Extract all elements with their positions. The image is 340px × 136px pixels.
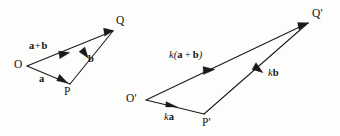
point-label-P-prime: P' xyxy=(202,117,211,129)
vector-diagram-figure: O P Q a b a+b O' P' Q' ka kb k(a+b) xyxy=(0,0,340,136)
point-label-Q: Q xyxy=(116,15,124,27)
vector-a-in-ka: a xyxy=(169,111,174,122)
right-triangle-group xyxy=(146,23,309,115)
vector-k-a-plus-b-arrow xyxy=(146,23,309,101)
vector-label-b: b xyxy=(88,54,94,65)
vector-kb-arrow xyxy=(204,23,308,114)
point-label-O: O xyxy=(14,59,22,71)
vector-ka-arrow xyxy=(146,100,204,114)
vector-label-kb: kb xyxy=(268,68,279,79)
vector-label-b-part: b xyxy=(41,40,47,51)
point-label-P: P xyxy=(64,86,71,98)
vector-a-in-k-group: a xyxy=(177,49,182,60)
vector-a-arrow xyxy=(27,66,70,84)
point-label-O-prime: O' xyxy=(126,93,137,105)
point-label-Q-prime: Q' xyxy=(312,8,323,20)
vector-label-a: a xyxy=(39,74,44,85)
vector-b-in-kb: b xyxy=(273,67,279,78)
vector-label-k-a-plus-b: k(a+b) xyxy=(169,50,202,61)
plus-sign-scaled: + xyxy=(183,49,193,60)
close-paren: ) xyxy=(199,49,203,60)
vector-label-a-plus-b: a+b xyxy=(29,41,47,52)
vector-label-ka: ka xyxy=(164,112,174,123)
